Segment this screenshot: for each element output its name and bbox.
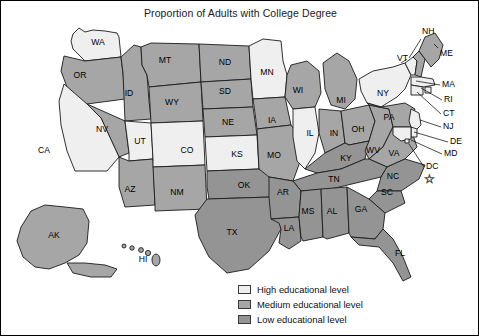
state-MS[interactable] bbox=[299, 189, 323, 241]
state-MI[interactable] bbox=[323, 53, 357, 109]
state-CT[interactable] bbox=[411, 85, 423, 95]
legend-swatch-high bbox=[238, 285, 251, 294]
legend-label-high: High educational level bbox=[257, 284, 349, 295]
state-TX[interactable] bbox=[195, 197, 281, 273]
state-NY[interactable] bbox=[359, 63, 411, 107]
state-callout-DC: DC bbox=[426, 161, 438, 171]
state-callout-NJ: NJ bbox=[443, 121, 454, 131]
leader-line-CT bbox=[417, 92, 441, 114]
legend-label-medium: Medium educational level bbox=[257, 299, 363, 310]
state-callout-MD: MD bbox=[444, 148, 457, 158]
state-HI-2[interactable] bbox=[130, 246, 134, 250]
dc-star-icon: ☆ bbox=[424, 172, 435, 186]
state-AK[interactable] bbox=[17, 205, 89, 269]
legend-item-low[interactable]: Low educational level bbox=[238, 312, 363, 326]
state-HI-5[interactable] bbox=[152, 254, 160, 266]
legend-swatch-low bbox=[238, 315, 251, 324]
state-label-CA: CA bbox=[38, 145, 50, 155]
state-HI-4[interactable] bbox=[145, 250, 150, 255]
state-AZ[interactable] bbox=[119, 157, 155, 207]
state-HI-1[interactable] bbox=[122, 244, 126, 248]
state-NM[interactable] bbox=[153, 165, 207, 211]
state-callout-CT: CT bbox=[443, 108, 455, 118]
state-IL[interactable] bbox=[293, 107, 319, 169]
state-UT[interactable] bbox=[125, 121, 153, 161]
state-AK-tail[interactable] bbox=[67, 263, 117, 277]
map-figure: Proportion of Adults with College Degree bbox=[0, 0, 479, 336]
state-ND[interactable] bbox=[199, 44, 251, 82]
state-CO[interactable] bbox=[151, 121, 205, 167]
state-IA[interactable] bbox=[253, 97, 291, 129]
state-MN[interactable] bbox=[249, 39, 287, 99]
leader-line-DE bbox=[414, 132, 448, 142]
legend: High educational level Medium educationa… bbox=[238, 282, 363, 327]
states-layer bbox=[17, 28, 443, 281]
leader-line-NJ bbox=[420, 120, 441, 127]
state-WY[interactable] bbox=[149, 82, 203, 123]
state-OK[interactable] bbox=[207, 169, 271, 199]
state-WI[interactable] bbox=[285, 61, 321, 109]
legend-label-low: Low educational level bbox=[257, 314, 347, 325]
state-callout-DE: DE bbox=[450, 136, 462, 146]
state-SD[interactable] bbox=[201, 79, 253, 109]
state-MT[interactable] bbox=[141, 43, 201, 87]
legend-item-medium[interactable]: Medium educational level bbox=[238, 297, 363, 311]
state-DC[interactable] bbox=[405, 139, 409, 143]
state-KS[interactable] bbox=[205, 135, 259, 171]
legend-item-high[interactable]: High educational level bbox=[238, 282, 363, 296]
state-label-HI: HI bbox=[139, 254, 148, 264]
state-NE[interactable] bbox=[203, 107, 257, 137]
state-AL[interactable] bbox=[321, 187, 349, 239]
state-callout-RI: RI bbox=[444, 94, 453, 104]
legend-swatch-medium bbox=[238, 300, 251, 309]
state-HI-3[interactable] bbox=[139, 248, 144, 253]
state-callout-MA: MA bbox=[442, 79, 455, 89]
state-WA[interactable] bbox=[71, 28, 121, 61]
